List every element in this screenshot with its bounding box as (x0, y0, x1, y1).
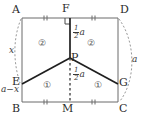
region-label-1-right: ① (94, 81, 102, 90)
region-label-1-left: ① (43, 81, 51, 90)
vertex-label-A: A (12, 4, 20, 15)
geometry-figure: A F D E P G B M C 1 2 a 1 2 a x a−x a ② … (0, 0, 145, 119)
measure-half-a-upper: 1 2 a (73, 25, 85, 41)
measure-half-a-upper-suffix: a (79, 27, 84, 37)
vertex-label-B: B (12, 103, 20, 114)
region-label-2-right: ② (87, 39, 95, 48)
region-label-2-left: ② (38, 39, 46, 48)
measure-half-a-lower-suffix: a (79, 69, 84, 79)
measure-half-a-lower: 1 2 a (73, 67, 85, 83)
vertex-label-D: D (120, 4, 129, 15)
arc-left-AE (15, 19, 21, 83)
vertex-label-P: P (71, 52, 78, 63)
vertex-label-G: G (119, 77, 128, 88)
measure-label-a-minus-x: a−x (1, 85, 19, 94)
measure-label-x: x (9, 46, 14, 55)
measure-label-a: a (132, 55, 137, 64)
vertex-label-C: C (119, 103, 127, 114)
vertex-label-M: M (62, 103, 73, 114)
vertex-label-F: F (62, 3, 70, 14)
